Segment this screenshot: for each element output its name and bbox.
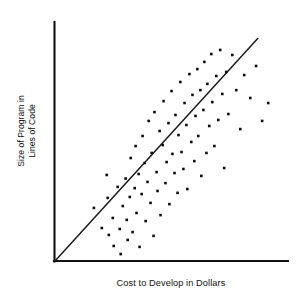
data-point bbox=[205, 152, 208, 155]
data-point bbox=[156, 190, 159, 193]
data-point bbox=[140, 193, 143, 196]
data-point bbox=[128, 196, 131, 199]
data-point bbox=[152, 235, 155, 238]
data-point bbox=[168, 203, 171, 206]
data-point bbox=[135, 212, 138, 215]
data-point bbox=[159, 214, 162, 217]
data-point bbox=[199, 89, 202, 92]
scatter-plot-figure: Size of Program in Lines of Code Cost to… bbox=[0, 0, 298, 303]
data-point bbox=[118, 228, 121, 231]
data-point bbox=[217, 119, 220, 122]
data-point bbox=[210, 53, 213, 56]
data-point bbox=[138, 246, 141, 249]
regression-trend-line bbox=[55, 38, 258, 261]
data-point bbox=[196, 68, 199, 71]
data-point bbox=[182, 168, 185, 171]
data-point bbox=[185, 124, 188, 127]
data-point bbox=[215, 75, 218, 78]
data-point bbox=[219, 49, 222, 52]
data-point bbox=[249, 97, 252, 100]
data-point bbox=[171, 153, 174, 156]
data-point bbox=[133, 187, 136, 190]
data-point bbox=[112, 245, 115, 248]
data-point bbox=[122, 205, 125, 208]
data-point bbox=[155, 171, 158, 174]
data-point bbox=[124, 177, 127, 180]
data-point bbox=[177, 134, 180, 137]
data-point bbox=[211, 101, 214, 104]
data-point bbox=[202, 109, 205, 112]
data-point bbox=[193, 160, 196, 163]
axes-group bbox=[54, 22, 288, 262]
data-point bbox=[225, 71, 228, 74]
data-point bbox=[143, 162, 146, 165]
data-point bbox=[162, 100, 165, 103]
data-point bbox=[208, 125, 211, 128]
data-point bbox=[227, 113, 230, 116]
data-point bbox=[158, 130, 161, 133]
data-point bbox=[213, 145, 216, 148]
data-point bbox=[197, 135, 200, 138]
data-point bbox=[235, 89, 238, 92]
trend-line-group bbox=[55, 38, 258, 261]
data-point bbox=[105, 174, 108, 177]
data-point bbox=[111, 217, 114, 220]
data-point bbox=[106, 197, 109, 200]
x-axis-label: Cost to Develop in Dollars bbox=[54, 278, 288, 289]
data-point bbox=[176, 192, 179, 195]
data-point bbox=[129, 157, 132, 160]
data-point bbox=[131, 231, 134, 234]
data-point bbox=[101, 227, 104, 230]
data-point bbox=[191, 94, 194, 97]
data-point bbox=[141, 135, 144, 138]
data-point bbox=[119, 253, 122, 256]
data-point bbox=[180, 151, 183, 154]
data-point bbox=[125, 219, 128, 222]
data-point bbox=[188, 73, 191, 76]
data-point bbox=[200, 175, 203, 178]
data-point bbox=[161, 144, 164, 147]
data-point bbox=[164, 182, 167, 185]
data-point bbox=[174, 114, 177, 117]
data-point bbox=[147, 120, 150, 123]
data-point bbox=[267, 102, 270, 105]
data-point bbox=[223, 167, 226, 170]
data-point bbox=[167, 122, 170, 125]
data-point bbox=[146, 181, 149, 184]
data-point bbox=[190, 141, 193, 144]
data-point bbox=[203, 61, 206, 64]
data-point bbox=[137, 173, 140, 176]
data-point bbox=[231, 54, 234, 57]
data-point-group bbox=[93, 49, 270, 256]
data-point bbox=[144, 220, 147, 223]
data-point bbox=[149, 202, 152, 205]
data-point bbox=[186, 188, 189, 191]
plot-canvas bbox=[0, 0, 298, 303]
data-point bbox=[261, 120, 264, 123]
data-point bbox=[173, 172, 176, 175]
data-point bbox=[221, 93, 224, 96]
data-point bbox=[194, 115, 197, 118]
data-point bbox=[153, 111, 156, 114]
data-point bbox=[243, 74, 246, 77]
data-point bbox=[255, 65, 258, 68]
data-point bbox=[206, 83, 209, 86]
data-point bbox=[179, 81, 182, 84]
data-point bbox=[150, 152, 153, 155]
data-point bbox=[126, 239, 129, 242]
data-point bbox=[183, 102, 186, 105]
data-point bbox=[116, 186, 119, 189]
data-point bbox=[93, 207, 96, 210]
data-point bbox=[134, 145, 137, 148]
data-point bbox=[170, 90, 173, 93]
data-point bbox=[239, 128, 242, 131]
data-point bbox=[108, 234, 111, 237]
data-point bbox=[165, 161, 168, 164]
